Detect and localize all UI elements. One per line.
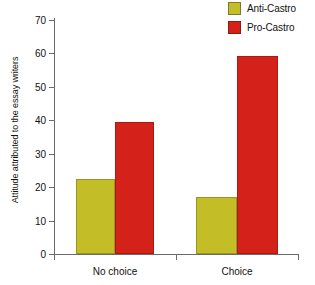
y-tick-50 — [49, 87, 54, 88]
y-tick-label-30: 30 — [35, 148, 46, 159]
y-tick-label-0: 0 — [40, 249, 46, 260]
y-tick-60 — [49, 53, 54, 54]
y-tick-10 — [49, 221, 54, 222]
y-tick-label-10: 10 — [35, 215, 46, 226]
x-tick-label-choice: Choice — [221, 266, 252, 277]
y-tick-label-20: 20 — [35, 182, 46, 193]
y-tick-70 — [49, 20, 54, 21]
x-tick-2 — [298, 254, 299, 260]
x-tick-0 — [54, 254, 55, 260]
y-tick-20 — [49, 187, 54, 188]
legend-swatch-anti-castro — [228, 2, 241, 15]
bar-choice-anti-castro — [196, 197, 237, 254]
bar-no-choice-anti-castro — [76, 179, 115, 254]
y-tick-label-50: 50 — [35, 81, 46, 92]
plot-area: 010203040506070 No choiceChoice — [54, 20, 298, 254]
y-axis-title: Attitude attributed to the essay writers — [10, 13, 20, 248]
y-tick-label-40: 40 — [35, 115, 46, 126]
y-axis-line — [54, 18, 55, 256]
legend-label-anti-castro: Anti-Castro — [247, 3, 296, 14]
x-tick-1 — [176, 254, 177, 260]
x-tick-label-no-choice: No choice — [93, 266, 137, 277]
bar-no-choice-pro-castro — [115, 122, 154, 254]
legend-item-anti-castro: Anti-Castro — [228, 2, 296, 15]
bar-choice-pro-castro — [237, 56, 278, 254]
y-tick-label-70: 70 — [35, 15, 46, 26]
y-tick-label-60: 60 — [35, 48, 46, 59]
y-tick-40 — [49, 120, 54, 121]
bar-chart: Anti-Castro Pro-Castro Attitude attribut… — [0, 0, 315, 285]
y-tick-30 — [49, 154, 54, 155]
